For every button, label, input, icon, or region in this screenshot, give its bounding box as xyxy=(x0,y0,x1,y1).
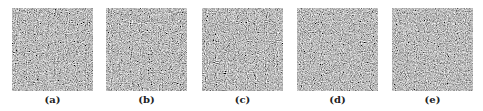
noise-image-d xyxy=(297,8,378,91)
noise-image-a xyxy=(12,8,93,91)
noise-image-e xyxy=(392,8,473,91)
panel-b xyxy=(106,8,187,91)
panel-label-d: (d) xyxy=(297,94,378,106)
noise-image-c xyxy=(202,8,283,91)
panel-label-e: (e) xyxy=(392,94,473,106)
panel-c xyxy=(202,8,283,91)
panel-label-c: (c) xyxy=(202,94,283,106)
panel-e xyxy=(392,8,473,91)
noise-image-b xyxy=(106,8,187,91)
panel-label-b: (b) xyxy=(106,94,187,106)
panel-d xyxy=(297,8,378,91)
panel-label-a: (a) xyxy=(12,94,93,106)
panel-a xyxy=(12,8,93,91)
